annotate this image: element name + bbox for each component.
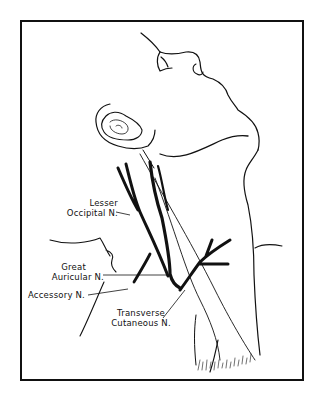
label-great-auricular: Great Auricular N.	[34, 262, 104, 282]
transverse-cutaneous-nerve	[180, 240, 230, 290]
neck-anatomy-drawing	[0, 0, 316, 394]
accessory-nerve	[134, 254, 150, 282]
label-accessory: Accessory N.	[28, 290, 85, 300]
label-lesser-occipital-line1: Lesser	[58, 198, 118, 208]
forehead-outline	[141, 33, 160, 52]
label-great-auricular-line2: Auricular N.	[34, 272, 104, 282]
label-great-auricular-line1: Great	[34, 262, 104, 272]
right-shoulder-outline	[255, 245, 282, 248]
label-transverse-cutaneous-line1: Transverse	[106, 308, 176, 318]
label-lesser-occipital-line2: Occipital N.	[58, 208, 118, 218]
label-lesser-occipital: Lesser Occipital N.	[58, 198, 118, 218]
label-accessory-text: Accessory N.	[28, 290, 85, 300]
clavicle-outline	[195, 315, 197, 365]
label-transverse-cutaneous-line2: Cutaneous N.	[106, 318, 176, 328]
ear-inner-detail	[110, 120, 128, 134]
jaw-line	[160, 136, 248, 157]
ear-outer	[96, 104, 155, 149]
sternal-hatching	[198, 340, 251, 372]
eye-outline	[157, 52, 172, 71]
chin-outline	[244, 150, 260, 355]
ear-inner	[102, 112, 142, 140]
ear-lobe	[143, 150, 154, 168]
lesser-occipital-leader	[116, 212, 130, 215]
label-transverse-cutaneous: Transverse Cutaneous N.	[106, 308, 176, 328]
accessory-leader	[88, 289, 128, 295]
